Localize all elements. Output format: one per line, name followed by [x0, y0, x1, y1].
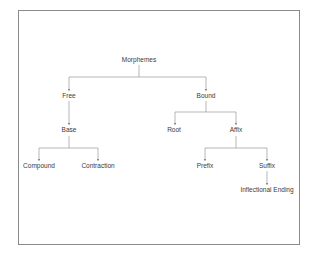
- node-suffix: Suffix: [259, 163, 275, 170]
- node-base: Base: [62, 127, 77, 134]
- node-prefix: Prefix: [197, 163, 214, 170]
- node-inflectional-ending: Inflectional Ending: [240, 187, 293, 194]
- node-morphemes: Morphemes: [122, 57, 156, 64]
- node-contraction: Contraction: [81, 163, 114, 170]
- tree-connectors: [0, 0, 317, 264]
- node-bound: Bound: [197, 93, 216, 100]
- node-free: Free: [62, 93, 75, 100]
- node-compound: Compound: [23, 163, 55, 170]
- node-root: Root: [167, 127, 181, 134]
- node-affix: Affix: [230, 127, 243, 134]
